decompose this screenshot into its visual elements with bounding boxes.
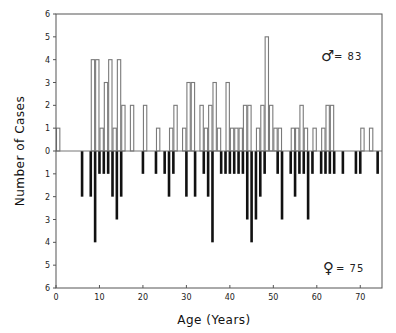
female-bar bbox=[342, 151, 345, 174]
female-bar bbox=[246, 151, 249, 220]
female-bar bbox=[320, 151, 323, 174]
female-bar bbox=[155, 151, 158, 174]
male-bar bbox=[200, 105, 203, 151]
male-bar bbox=[243, 105, 246, 151]
female-bar bbox=[255, 151, 258, 220]
female-bar bbox=[329, 151, 332, 174]
age-distribution-chart: 6543210123456 010203040506070 Age (Years… bbox=[0, 0, 396, 333]
y-axis-title: Number of Cases bbox=[13, 96, 27, 207]
female-bar bbox=[81, 151, 84, 197]
x-tick-label: 30 bbox=[181, 293, 191, 302]
x-tick-label: 60 bbox=[312, 293, 322, 302]
female-bar bbox=[163, 151, 166, 174]
female-bar bbox=[298, 151, 301, 174]
y-tick-label: 0 bbox=[45, 147, 50, 156]
female-bar bbox=[324, 151, 327, 174]
x-tick-label: 40 bbox=[225, 293, 235, 302]
y-tick-label: 2 bbox=[45, 193, 50, 202]
male-bar bbox=[269, 105, 272, 151]
male-bar bbox=[187, 83, 190, 152]
male-bar bbox=[230, 128, 233, 151]
y-tick-label: 6 bbox=[45, 284, 50, 293]
female-bar bbox=[237, 151, 240, 174]
male-bar bbox=[104, 83, 107, 152]
female-bar bbox=[185, 151, 188, 197]
male-bar bbox=[291, 128, 294, 151]
male-bar bbox=[96, 60, 99, 151]
y-tick-label: 4 bbox=[45, 238, 50, 247]
male-bar bbox=[91, 60, 94, 151]
female-bar bbox=[233, 151, 236, 174]
y-tick-label: 2 bbox=[45, 101, 50, 110]
y-tick-label: 5 bbox=[45, 261, 50, 270]
y-tick-label: 3 bbox=[45, 216, 50, 225]
male-bar bbox=[304, 128, 307, 151]
female-bar bbox=[116, 151, 119, 220]
male-bar bbox=[130, 105, 133, 151]
female-bar bbox=[263, 151, 266, 174]
male-bar bbox=[239, 128, 242, 151]
x-tick-label: 10 bbox=[94, 293, 104, 302]
male-bar bbox=[204, 128, 207, 151]
male-bar bbox=[122, 105, 125, 151]
female-bar bbox=[172, 151, 175, 174]
male-bar bbox=[296, 128, 299, 151]
y-axis-ticks: 6543210123456 bbox=[45, 10, 56, 293]
male-bar bbox=[235, 128, 238, 151]
female-bar bbox=[311, 151, 314, 174]
female-bar bbox=[359, 151, 362, 174]
female-bar bbox=[107, 151, 110, 174]
male-bar bbox=[274, 128, 277, 151]
female-total-label: = 75 bbox=[336, 263, 364, 274]
male-bar bbox=[217, 128, 220, 151]
female-bar bbox=[376, 151, 379, 174]
female-bar bbox=[294, 151, 297, 197]
male-bar bbox=[191, 83, 194, 152]
female-bar bbox=[259, 151, 262, 197]
y-tick-label: 3 bbox=[45, 79, 50, 88]
male-bar bbox=[209, 105, 212, 151]
male-bar bbox=[170, 128, 173, 151]
female-bar bbox=[211, 151, 214, 242]
x-tick-label: 50 bbox=[268, 293, 278, 302]
female-bar bbox=[242, 151, 245, 174]
male-total-label: = 83 bbox=[334, 51, 362, 62]
female-bar bbox=[103, 151, 106, 174]
male-bar bbox=[117, 60, 120, 151]
female-bar bbox=[89, 151, 92, 197]
male-bar bbox=[143, 105, 146, 151]
male-bar bbox=[261, 105, 264, 151]
female-bar bbox=[194, 151, 197, 197]
y-tick-label: 1 bbox=[45, 170, 50, 179]
male-bar bbox=[265, 37, 268, 151]
male-bar bbox=[361, 128, 364, 151]
male-bar bbox=[183, 128, 186, 151]
y-tick-label: 1 bbox=[45, 124, 50, 133]
y-tick-label: 5 bbox=[45, 33, 50, 42]
female-bar bbox=[276, 151, 279, 174]
y-tick-label: 6 bbox=[45, 10, 50, 19]
female-bar bbox=[120, 151, 123, 197]
male-bar bbox=[109, 60, 112, 151]
female-bar bbox=[229, 151, 232, 174]
female-bar bbox=[142, 151, 145, 174]
female-bar bbox=[224, 151, 227, 174]
female-bar bbox=[355, 151, 358, 174]
male-bar bbox=[174, 105, 177, 151]
female-bar bbox=[281, 151, 284, 220]
female-symbol-icon: ♀ bbox=[323, 259, 334, 277]
male-bar bbox=[322, 128, 325, 151]
female-bar bbox=[250, 151, 253, 242]
y-tick-label: 4 bbox=[45, 56, 50, 65]
female-bar bbox=[302, 151, 305, 174]
x-tick-label: 70 bbox=[355, 293, 365, 302]
male-bar bbox=[213, 83, 216, 152]
male-bar bbox=[113, 128, 116, 151]
male-bar bbox=[300, 105, 303, 151]
female-bar bbox=[202, 151, 205, 174]
x-tick-label: 20 bbox=[138, 293, 148, 302]
male-bar bbox=[326, 105, 329, 151]
x-tick-label: 0 bbox=[53, 293, 58, 302]
male-bar bbox=[369, 128, 372, 151]
female-annotation: ♀ = 75 bbox=[323, 259, 364, 277]
